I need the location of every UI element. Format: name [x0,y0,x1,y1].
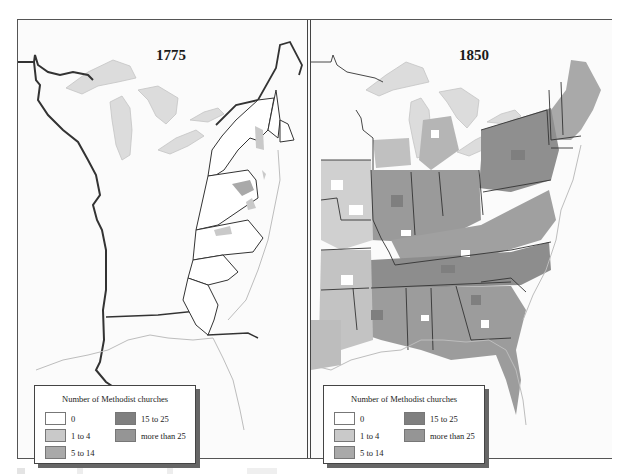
legend-swatch [334,429,355,442]
legend-swatch [404,412,425,425]
map-year-label: 1850 [459,47,489,64]
map-year-label: 1775 [156,47,186,64]
legend-swatch [45,412,66,425]
caption-remnant [17,462,611,476]
legend-label: 5 to 14 [71,448,95,458]
legend-item-5-14: 5 to 14 [45,446,95,459]
legend-label: 15 to 25 [141,414,169,424]
legend-item-15-25: 15 to 25 [404,412,458,425]
colony-borders [183,90,294,335]
map-panel-1850: 1850 Number of Methodist churches 0 1 to… [310,20,612,458]
legend-swatch [45,446,66,459]
legend-swatch [45,429,66,442]
legend-label: more than 25 [430,431,475,441]
legend-item-more-than-25: more than 25 [404,429,475,442]
legend-item-5-14: 5 to 14 [334,446,384,459]
legend-label: 0 [360,414,364,424]
legend-item-15-25: 15 to 25 [115,412,169,425]
legend-label: 1 to 4 [71,431,90,441]
legend-label: 15 to 25 [430,414,458,424]
legend-swatch [404,429,425,442]
legend-item-more-than-25: more than 25 [115,429,186,442]
legend-title: Number of Methodist churches [35,394,195,404]
southern-boundary [106,310,258,338]
legend-label: more than 25 [141,431,186,441]
legend-1775: Number of Methodist churches 0 1 to 4 5 … [34,385,196,464]
legend-item-1-4: 1 to 4 [334,429,379,442]
map-panel-1775: 1775 Number of Methodist churches 0 1 to… [18,20,308,458]
legend-item-0: 0 [334,412,364,425]
legend-1850: Number of Methodist churches 0 1 to 4 5 … [323,385,485,464]
legend-title: Number of Methodist churches [324,394,484,404]
legend-label: 5 to 14 [360,448,384,458]
legend-label: 1 to 4 [360,431,379,441]
figure-frame: 1775 Number of Methodist churches 0 1 to… [17,19,612,459]
legend-item-1-4: 1 to 4 [45,429,90,442]
legend-swatch [334,446,355,459]
legend-item-0: 0 [45,412,75,425]
western-boundary [18,55,118,390]
legend-swatch [334,412,355,425]
legend-label: 0 [71,414,75,424]
legend-swatch [115,412,136,425]
great-lakes [66,60,224,160]
legend-swatch [115,429,136,442]
